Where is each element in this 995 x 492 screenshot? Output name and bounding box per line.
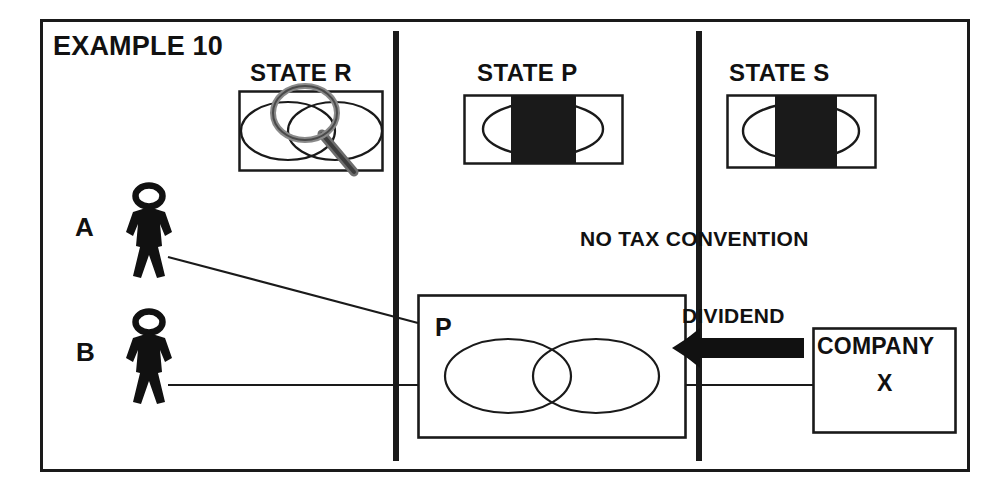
person-a-label: A [75,214,94,240]
state-r-box [240,86,383,172]
dividend-arrow [672,328,804,368]
no-tax-convention-label: NO TAX CONVENTION [580,228,809,249]
connector-a-to-p [168,257,418,323]
state-p-black-band [511,96,576,163]
page-title: EXAMPLE 10 [53,33,223,60]
company-x-label-line2: X [877,372,892,395]
dividend-label: DIVIDEND [682,305,785,326]
company-x-label-line1: COMPANY [817,335,934,358]
state-p-label: STATE P [477,61,578,85]
state-r-label: STATE R [250,61,352,85]
partnership-p-box [419,296,686,438]
person-b-figure [126,312,172,405]
person-a-figure [126,186,172,279]
state-s-black-band [775,96,837,167]
person-b-label: B [76,339,95,365]
partnership-p-label: P [435,315,452,340]
state-s-label: STATE S [729,61,830,85]
state-p-box [465,96,623,164]
state-s-box [728,96,876,168]
diagram-canvas: EXAMPLE 10 STATE R STATE P STATE S A B N… [0,0,995,492]
